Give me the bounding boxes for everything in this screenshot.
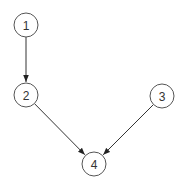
- node-label: 1: [23, 19, 30, 33]
- node-1: 1: [14, 13, 38, 37]
- node-label: 4: [91, 158, 98, 172]
- edge-2-to-4: [34, 104, 84, 155]
- graph-canvas: 1234: [0, 0, 184, 185]
- node-label: 3: [159, 90, 166, 104]
- nodes-group: 1234: [14, 13, 174, 176]
- edge-3-to-4: [103, 104, 153, 154]
- node-3: 3: [150, 84, 174, 108]
- node-2: 2: [14, 83, 38, 107]
- graph-svg: 1234: [0, 0, 184, 185]
- node-label: 2: [23, 89, 30, 103]
- node-4: 4: [82, 152, 106, 176]
- edges-group: [26, 37, 154, 155]
